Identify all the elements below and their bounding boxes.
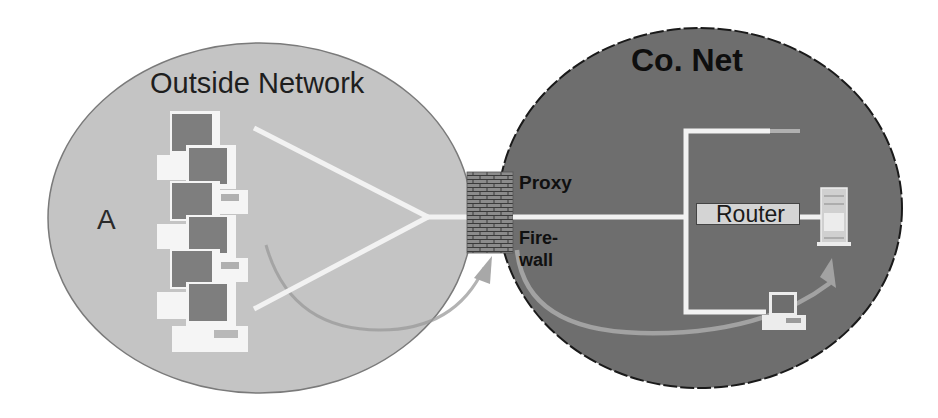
firewall-label-line2: wall (519, 250, 553, 270)
outside-network-title: Outside Network (150, 69, 364, 98)
firewall-label: Fire- wall (519, 228, 558, 272)
company-network-title: Co. Net (631, 44, 743, 76)
firewall-icon (467, 172, 513, 253)
server-icon (817, 188, 851, 246)
router-label: Router (716, 203, 785, 226)
proxy-label: Proxy (519, 173, 572, 192)
workstation-stack (157, 111, 248, 352)
firewall-label-line1: Fire- (519, 228, 558, 248)
node-a-label: A (97, 206, 116, 234)
